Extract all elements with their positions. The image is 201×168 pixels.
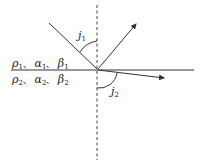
angle-j1-label: j1 — [78, 30, 86, 43]
refracted-ray — [98, 70, 164, 78]
lower-medium-label: ρ2、 α2、 β2 — [12, 74, 69, 87]
angle-j2-label: j2 — [111, 86, 119, 99]
reflected-ray — [98, 24, 136, 69]
upper-medium-label: ρ1、 α1、 β1 — [12, 58, 69, 71]
